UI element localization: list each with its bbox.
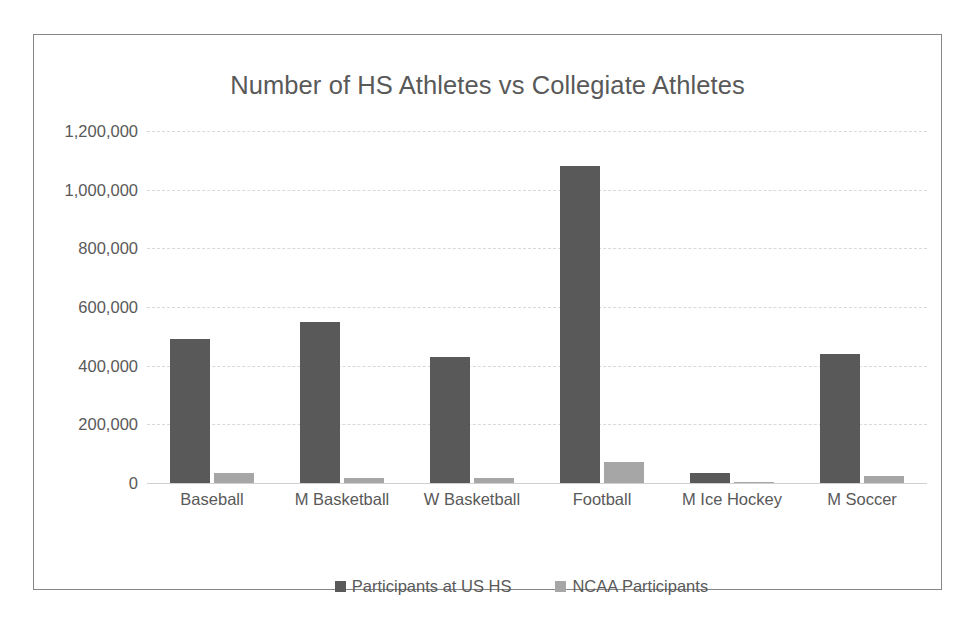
y-axis-tick-label: 600,000 — [78, 298, 138, 317]
legend-item[interactable]: Participants at US HS — [335, 577, 512, 596]
x-axis-tick-label: M Basketball — [295, 490, 389, 509]
bar-group — [277, 131, 407, 483]
x-axis-tick-label: M Soccer — [827, 490, 897, 509]
bar[interactable] — [344, 478, 384, 483]
bar[interactable] — [820, 354, 860, 483]
bar-group — [147, 131, 277, 483]
legend-label: NCAA Participants — [572, 577, 708, 596]
bar[interactable] — [474, 478, 514, 483]
chart-frame: Number of HS Athletes vs Collegiate Athl… — [33, 34, 942, 590]
x-axis-tick-label: Football — [573, 490, 632, 509]
plot-area: 0200,000400,000600,000800,0001,000,0001,… — [147, 131, 927, 483]
legend-label: Participants at US HS — [352, 577, 512, 596]
y-axis-tick-label: 0 — [129, 474, 138, 493]
chart-title: Number of HS Athletes vs Collegiate Athl… — [34, 71, 941, 100]
y-axis-tick-label: 400,000 — [78, 356, 138, 375]
bar[interactable] — [604, 462, 644, 483]
chart-legend: Participants at US HSNCAA Participants — [34, 577, 975, 596]
bar[interactable] — [214, 473, 254, 483]
legend-swatch-icon — [335, 581, 346, 592]
x-axis-tick-label: W Basketball — [424, 490, 520, 509]
bar-group — [537, 131, 667, 483]
y-axis-tick-label: 200,000 — [78, 415, 138, 434]
bar-group — [407, 131, 537, 483]
y-axis-tick-label: 1,000,000 — [65, 180, 138, 199]
y-axis-tick-label: 1,200,000 — [65, 122, 138, 141]
x-axis-tick-labels: BaseballM BasketballW BasketballFootball… — [147, 490, 927, 518]
bar-group — [667, 131, 797, 483]
bar[interactable] — [430, 357, 470, 483]
y-axis-tick-label: 800,000 — [78, 239, 138, 258]
bar-group — [797, 131, 927, 483]
bar[interactable] — [170, 339, 210, 483]
bar[interactable] — [560, 166, 600, 483]
bar[interactable] — [864, 476, 904, 483]
gridline — [147, 483, 927, 484]
x-axis-tick-label: M Ice Hockey — [682, 490, 782, 509]
bar[interactable] — [690, 473, 730, 483]
bar[interactable] — [300, 322, 340, 483]
bars-layer — [147, 131, 927, 483]
x-axis-tick-label: Baseball — [180, 490, 243, 509]
legend-item[interactable]: NCAA Participants — [555, 577, 708, 596]
legend-swatch-icon — [555, 581, 566, 592]
bar[interactable] — [734, 482, 774, 483]
